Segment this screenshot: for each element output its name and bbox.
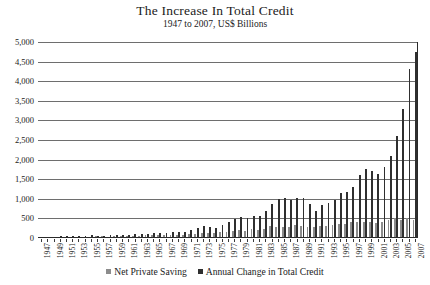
x-axis-tick — [253, 239, 254, 242]
x-axis-tick — [396, 239, 397, 242]
x-axis-tick — [328, 239, 329, 242]
y-axis-tick-label: 1,000 — [15, 195, 34, 204]
x-axis-tick — [371, 239, 372, 242]
x-axis-tick — [272, 239, 273, 242]
x-axis-tick — [378, 239, 379, 242]
x-axis-tick-label: 1949 — [57, 243, 65, 258]
x-axis-tick-label: 1993 — [331, 243, 339, 258]
x-axis-tick — [334, 239, 335, 242]
plot-area — [38, 42, 418, 238]
x-axis-tick — [290, 239, 291, 242]
bar-annual-change-total-credit — [240, 217, 242, 238]
x-axis-tick — [216, 239, 217, 242]
x-axis-tick — [297, 239, 298, 242]
x-axis-tick — [47, 239, 48, 242]
x-axis-tick-label: 1999 — [368, 243, 376, 258]
y-axis-labels: 5,0004,5004,0003,5003,0002,5002,0001,500… — [0, 42, 34, 238]
x-axis-tick-label: 1983 — [268, 243, 276, 258]
x-axis-tick — [122, 239, 123, 242]
x-axis-tick — [384, 239, 385, 242]
bar-annual-change-total-credit — [296, 198, 298, 238]
bar-annual-change-total-credit — [309, 204, 311, 238]
x-axis-tick-label: 1979 — [243, 243, 251, 258]
x-axis-tick — [54, 239, 55, 242]
x-axis-tick-label: 1947 — [44, 243, 52, 258]
bar-series-layer — [38, 42, 418, 238]
x-axis-tick — [284, 239, 285, 242]
legend-swatch-icon-saving — [106, 269, 111, 274]
x-axis-tick — [203, 239, 204, 242]
x-axis-tick-label: 2007 — [418, 243, 426, 258]
bar-annual-change-total-credit — [409, 69, 411, 238]
bar-annual-change-total-credit — [247, 218, 249, 238]
x-axis-tick — [159, 239, 160, 242]
x-axis-tick-label: 1959 — [119, 243, 127, 258]
bar-annual-change-total-credit — [259, 216, 261, 238]
legend-label-credit: Annual Change in Total Credit — [206, 266, 324, 277]
y-axis-tick-label: 5,000 — [15, 38, 34, 47]
bar-annual-change-total-credit — [284, 198, 286, 238]
y-axis-tick-label: 0 — [30, 234, 34, 243]
x-axis-tick — [178, 239, 179, 242]
legend-item-net-private-saving: Net Private Saving — [106, 266, 186, 277]
y-axis-tick-label: 2,000 — [15, 155, 34, 164]
x-axis-tick — [234, 239, 235, 242]
bar-annual-change-total-credit — [352, 187, 354, 238]
bar-annual-change-total-credit — [265, 211, 267, 238]
bar-annual-change-total-credit — [328, 203, 330, 238]
x-axis-tick — [128, 239, 129, 242]
x-axis-tick-label: 1991 — [318, 243, 326, 258]
y-axis-tick-label: 500 — [21, 214, 34, 223]
x-axis-tick-label: 1961 — [131, 243, 139, 258]
x-axis-tick — [359, 239, 360, 242]
x-axis-tick — [166, 239, 167, 242]
x-axis-tick — [353, 239, 354, 242]
x-axis-tick-label: 1965 — [156, 243, 164, 258]
bar-annual-change-total-credit — [234, 219, 236, 238]
x-axis-tick — [402, 239, 403, 242]
x-axis-tick-label: 1985 — [281, 243, 289, 258]
x-axis-tick — [97, 239, 98, 242]
x-axis-tick — [228, 239, 229, 242]
x-axis-tick — [147, 239, 148, 242]
x-axis-tick — [315, 239, 316, 242]
bar-annual-change-total-credit — [396, 136, 398, 238]
x-axis-tick — [78, 239, 79, 242]
x-axis-tick-label: 1971 — [194, 243, 202, 258]
x-axis-tick-label: 1967 — [169, 243, 177, 258]
bar-annual-change-total-credit — [278, 199, 280, 238]
x-axis-tick — [247, 239, 248, 242]
x-axis-tick — [72, 239, 73, 242]
x-axis-tick-label: 1951 — [69, 243, 77, 258]
bar-annual-change-total-credit — [253, 216, 255, 238]
y-axis-tick-label: 4,000 — [15, 77, 34, 86]
bar-annual-change-total-credit — [377, 174, 379, 238]
x-axis-tick — [103, 239, 104, 242]
bar-annual-change-total-credit — [359, 175, 361, 238]
bar-annual-change-total-credit — [290, 200, 292, 238]
x-axis-tick — [85, 239, 86, 242]
y-axis-tick-label: 4,500 — [15, 57, 34, 66]
bar-annual-change-total-credit — [371, 171, 373, 238]
x-axis-tick — [265, 239, 266, 242]
x-axis-tick — [197, 239, 198, 242]
x-axis-tick — [415, 239, 416, 242]
x-axis-tick-label: 1989 — [306, 243, 314, 258]
x-axis-tick — [278, 239, 279, 242]
chart-title: The Increase In Total Credit — [0, 3, 430, 19]
legend-label-saving: Net Private Saving — [114, 266, 186, 277]
x-axis-tick — [110, 239, 111, 242]
y-axis-tick-label: 2,500 — [15, 136, 34, 145]
x-axis-tick-label: 1977 — [231, 243, 239, 258]
x-axis-tick — [390, 239, 391, 242]
x-axis-tick — [346, 239, 347, 242]
x-axis-tick — [153, 239, 154, 242]
x-axis-tick — [116, 239, 117, 242]
x-axis-tick — [209, 239, 210, 242]
x-axis-tick — [303, 239, 304, 242]
x-axis-line — [38, 237, 418, 238]
x-axis-tick-label: 1953 — [81, 243, 89, 258]
x-axis-tick — [222, 239, 223, 242]
x-axis-tick — [91, 239, 92, 242]
y-axis-tick-label: 1,500 — [15, 175, 34, 184]
